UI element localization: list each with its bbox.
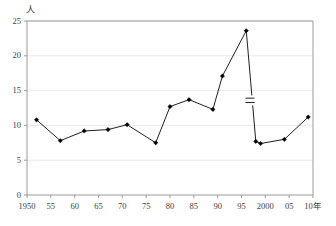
axis-break-marker <box>245 95 255 105</box>
line-chart: 人 05101520251950556065707580859095200005… <box>0 0 336 226</box>
data-point-marker <box>244 29 248 33</box>
axis-break-mask <box>245 95 255 105</box>
data-point-marker <box>220 74 224 78</box>
data-point-marker <box>258 141 262 145</box>
y-axis-tick-label: 0 <box>5 191 21 200</box>
x-axis-tick-label: 10年 <box>296 202 330 211</box>
y-axis-tick-label: 10 <box>5 121 21 130</box>
data-point-marker <box>187 98 191 102</box>
data-point-marker <box>106 127 110 131</box>
data-series-line <box>37 31 309 144</box>
chart-plot-area <box>0 0 336 226</box>
y-axis-unit-label: 人 <box>26 6 35 15</box>
y-axis-tick-label: 5 <box>5 156 21 165</box>
data-point-marker <box>211 107 215 111</box>
data-point-marker <box>168 105 172 109</box>
data-point-marker <box>254 139 258 143</box>
y-axis-tick-label: 15 <box>5 86 21 95</box>
y-axis-tick-label: 25 <box>5 17 21 26</box>
data-point-marker <box>82 129 86 133</box>
y-axis-tick-label: 20 <box>5 51 21 60</box>
